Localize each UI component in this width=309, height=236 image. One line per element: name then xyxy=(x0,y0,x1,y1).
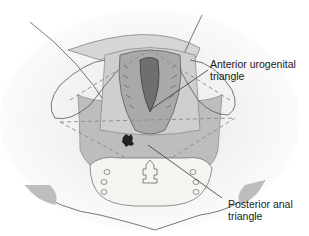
anterior-label-line2: triangle xyxy=(210,70,296,82)
anterior-label-line1: Anterior urogenital xyxy=(210,58,296,70)
anterior-urogenital-triangle-label: Anterior urogenital triangle xyxy=(210,58,296,82)
posterior-label-line1: Posterior anal xyxy=(228,198,293,210)
posterior-label-line2: triangle xyxy=(228,210,293,222)
posterior-anal-triangle-label: Posterior anal triangle xyxy=(228,198,293,222)
perineum-diagram: Anterior urogenital triangle Posterior a… xyxy=(0,0,309,236)
